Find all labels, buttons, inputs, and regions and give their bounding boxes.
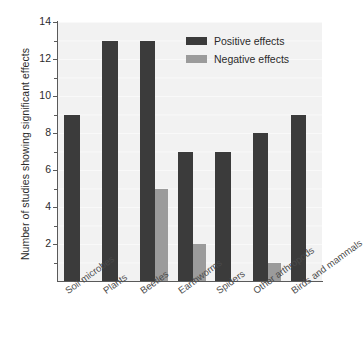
bar-positive <box>140 41 156 282</box>
y-tick-label: 14 <box>15 15 51 27</box>
y-tick-label: 12 <box>15 52 51 64</box>
bar-negative <box>155 189 168 282</box>
legend-swatch-negative-icon <box>186 55 207 63</box>
bar-positive <box>253 133 269 281</box>
legend: Positive effects Negative effects <box>186 33 289 69</box>
y-tick-label: 10 <box>15 89 51 101</box>
legend-label-positive: Positive effects <box>214 35 284 47</box>
bar-positive <box>102 41 118 282</box>
y-tick-label: 6 <box>15 163 51 175</box>
legend-item-positive[interactable]: Positive effects <box>186 33 289 48</box>
legend-item-negative[interactable]: Negative effects <box>186 51 289 66</box>
bar-positive <box>64 115 80 282</box>
legend-swatch-positive-icon <box>186 37 207 45</box>
y-tick-label: 8 <box>15 126 51 138</box>
y-tick-label: 4 <box>15 200 51 212</box>
y-tick-label: 2 <box>15 237 51 249</box>
bar-positive <box>178 152 194 282</box>
legend-label-negative: Negative effects <box>214 53 289 65</box>
